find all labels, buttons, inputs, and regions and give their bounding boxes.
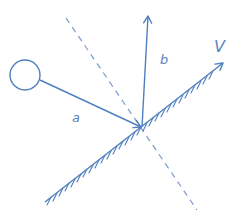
dashed-normal-line	[66, 18, 197, 210]
surface-line	[45, 63, 223, 202]
ball-circle	[10, 60, 40, 90]
diagram-svg: a b V	[0, 0, 243, 224]
outgoing-vector-b	[142, 16, 148, 127]
incoming-vector-a	[40, 80, 141, 127]
label-v: V	[214, 37, 226, 56]
label-b: b	[160, 52, 168, 67]
label-a: a	[72, 110, 80, 125]
diagram-canvas: a b V	[0, 0, 243, 224]
